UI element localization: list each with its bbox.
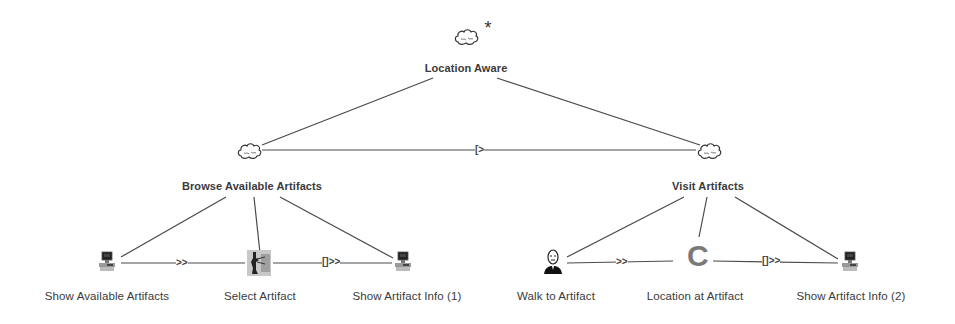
- interaction-icon[interactable]: [247, 250, 271, 276]
- root-marker: *: [484, 18, 491, 39]
- abstract-task-cloud-icon[interactable]: [237, 141, 263, 161]
- leaf-label-location-at-artifact[interactable]: Location at Artifact: [647, 290, 744, 302]
- task-model-diagram: * Location Aware Browse Available Artifa…: [0, 0, 955, 324]
- computer-icon[interactable]: [840, 251, 860, 273]
- leaf-label-show-artifact-info-1[interactable]: Show Artifact Info (1): [353, 290, 462, 302]
- operator-enabling: >>: [176, 258, 188, 268]
- abstract-task-cloud-icon[interactable]: [454, 27, 480, 47]
- leaf-label-select-artifact[interactable]: Select Artifact: [224, 290, 296, 302]
- operator-enabling-location: []>>: [762, 256, 780, 266]
- leaf-label-show-available-artifacts[interactable]: Show Available Artifacts: [45, 290, 169, 302]
- svg-text:C: C: [687, 239, 709, 272]
- leaf-label-walk-to-artifact[interactable]: Walk to Artifact: [517, 290, 595, 302]
- node-label-visit-artifacts[interactable]: Visit Artifacts: [672, 180, 744, 192]
- abstract-task-cloud-icon[interactable]: [697, 141, 723, 161]
- computer-icon[interactable]: [393, 251, 413, 273]
- leaf-label-show-artifact-info-2[interactable]: Show Artifact Info (2): [797, 290, 906, 302]
- node-label-location-aware[interactable]: Location Aware: [425, 62, 508, 74]
- node-label-browse-available-artifacts[interactable]: Browse Available Artifacts: [182, 180, 322, 192]
- connector-lines: [0, 0, 955, 324]
- computer-icon[interactable]: [97, 251, 117, 273]
- user-icon[interactable]: [542, 248, 564, 276]
- operator-enabling-info: []>>: [322, 257, 340, 267]
- context-c-icon[interactable]: C: [685, 238, 715, 272]
- operator-enabling-walk: >>: [616, 257, 628, 267]
- operator-disabling: [>: [475, 145, 484, 155]
